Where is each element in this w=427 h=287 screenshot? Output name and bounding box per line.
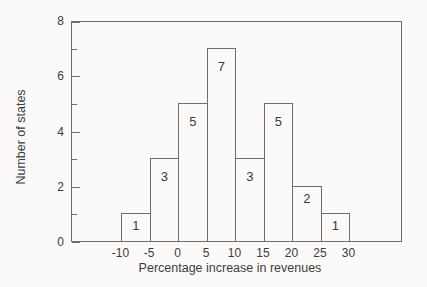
bar-value-label: 2 bbox=[303, 192, 310, 206]
y-tick-label: 2 bbox=[38, 180, 64, 194]
x-axis-tick bbox=[321, 237, 322, 241]
x-tick-label: -10 bbox=[112, 247, 129, 260]
y-tick-label: 6 bbox=[38, 69, 64, 83]
y-axis-major-tick bbox=[72, 76, 80, 77]
x-axis-tick bbox=[150, 237, 151, 241]
bar-value-label: 3 bbox=[161, 170, 168, 184]
x-tick-label: 20 bbox=[285, 247, 298, 260]
y-axis-title: Number of states bbox=[13, 67, 29, 207]
x-tick-label: 0 bbox=[174, 247, 181, 260]
y-tick-label: 4 bbox=[38, 125, 64, 139]
bar-value-label: 5 bbox=[275, 115, 282, 129]
x-tick-label: -5 bbox=[144, 247, 155, 260]
x-axis-tick bbox=[207, 237, 208, 241]
x-axis-tick bbox=[235, 237, 236, 241]
bar-value-label: 7 bbox=[218, 60, 225, 74]
y-axis-minor-tick bbox=[72, 49, 77, 50]
x-axis-tick bbox=[121, 237, 122, 241]
bar-value-label: 5 bbox=[189, 115, 196, 129]
x-tick-label: 25 bbox=[313, 247, 326, 260]
y-axis-major-tick bbox=[72, 22, 80, 23]
histogram-chart: 13573521 Number of states Percentage inc… bbox=[0, 0, 427, 287]
x-tick-label: 10 bbox=[228, 247, 241, 260]
x-tick-label: 30 bbox=[342, 247, 355, 260]
x-axis-tick bbox=[178, 237, 179, 241]
y-tick-label: 8 bbox=[38, 14, 64, 28]
x-axis-tick bbox=[349, 237, 350, 241]
x-axis-tick bbox=[264, 237, 265, 241]
bar-value-label: 1 bbox=[332, 219, 339, 233]
y-axis-major-tick bbox=[72, 132, 80, 133]
x-tick-label: 15 bbox=[256, 247, 269, 260]
y-axis-minor-tick bbox=[72, 104, 77, 105]
plot-area: 13573521 bbox=[71, 21, 402, 242]
y-axis-major-tick bbox=[72, 187, 80, 188]
x-axis-tick bbox=[292, 237, 293, 241]
bar-value-label: 3 bbox=[246, 170, 253, 184]
y-axis-minor-tick bbox=[72, 159, 77, 160]
y-tick-label: 0 bbox=[38, 235, 64, 249]
x-axis-title: Percentage increase in revenues bbox=[60, 261, 400, 276]
y-axis-major-tick bbox=[72, 242, 80, 243]
y-axis-minor-tick bbox=[72, 214, 77, 215]
bar-value-label: 1 bbox=[132, 219, 139, 233]
x-tick-label: 5 bbox=[203, 247, 210, 260]
histogram-bar bbox=[207, 48, 237, 241]
